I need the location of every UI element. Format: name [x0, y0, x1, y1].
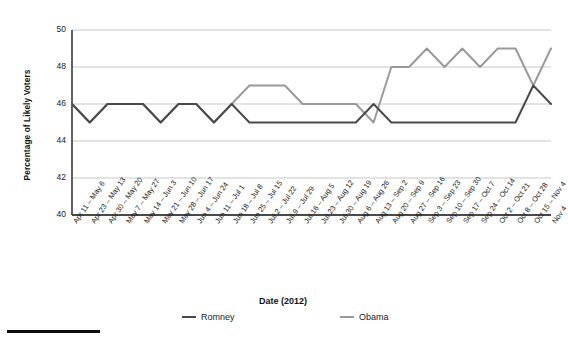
series-lines — [72, 49, 551, 123]
legend-item-romney[interactable]: Romney — [182, 309, 235, 325]
chart-legend: RomneyObama — [0, 309, 566, 325]
legend-item-obama[interactable]: Obama — [340, 309, 389, 325]
y-tick-label: 46 — [44, 98, 66, 108]
y-tick-label: 40 — [44, 209, 66, 219]
y-tick-label: 50 — [44, 24, 66, 34]
legend-swatch-icon — [340, 316, 354, 319]
x-axis-title: Date (2012) — [0, 296, 566, 306]
y-tick-label: 44 — [44, 135, 66, 145]
y-tick-label: 42 — [44, 172, 66, 182]
legend-label: Obama — [359, 312, 389, 322]
legend-label: Romney — [201, 312, 235, 322]
legend-swatch-icon — [182, 316, 196, 319]
y-tick-label: 48 — [44, 61, 66, 71]
series-line-obama — [72, 49, 551, 123]
bottom-rule-decoration — [7, 330, 100, 333]
